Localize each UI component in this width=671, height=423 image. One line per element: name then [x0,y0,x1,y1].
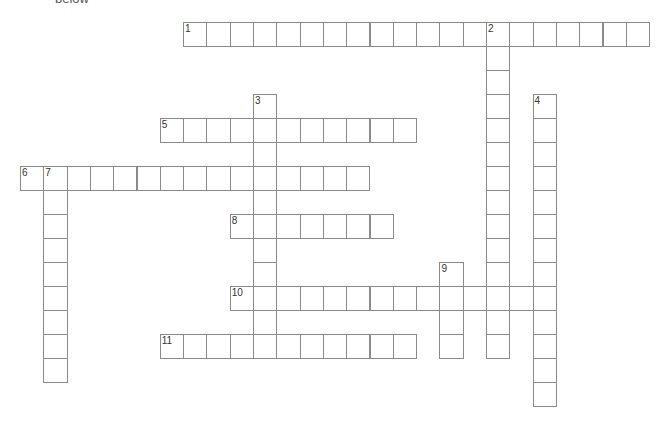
crossword-cell[interactable] [253,166,277,191]
crossword-cell[interactable] [323,118,347,143]
crossword-cell[interactable] [323,214,347,239]
crossword-cell[interactable] [43,358,67,383]
crossword-cell[interactable] [370,214,394,239]
crossword-cell[interactable] [43,286,67,311]
crossword-cell[interactable] [253,262,277,287]
crossword-cell[interactable] [183,334,207,359]
crossword-cell[interactable] [533,118,557,143]
crossword-cell[interactable] [206,118,230,143]
crossword-cell[interactable] [533,286,557,311]
crossword-cell[interactable] [300,22,324,47]
crossword-cell[interactable] [230,166,254,191]
crossword-cell[interactable] [230,334,254,359]
crossword-cell[interactable] [206,22,230,47]
crossword-cell[interactable] [346,334,370,359]
crossword-cell[interactable] [509,286,533,311]
crossword-cell[interactable] [90,166,114,191]
crossword-cell[interactable] [300,118,324,143]
crossword-cell[interactable] [486,286,510,311]
crossword-cell[interactable] [416,286,440,311]
crossword-cell[interactable] [67,166,91,191]
crossword-cell[interactable] [579,22,603,47]
crossword-cell[interactable] [509,22,533,47]
crossword-cell[interactable]: 5 [160,118,184,143]
crossword-cell[interactable] [183,166,207,191]
crossword-cell[interactable] [276,166,300,191]
crossword-cell[interactable] [230,118,254,143]
crossword-cell[interactable] [533,190,557,215]
crossword-cell[interactable]: 7 [43,166,67,191]
crossword-cell[interactable] [346,286,370,311]
crossword-cell[interactable] [486,310,510,335]
crossword-cell[interactable] [206,166,230,191]
crossword-cell[interactable] [393,22,417,47]
crossword-cell[interactable] [346,22,370,47]
crossword-cell[interactable] [230,22,254,47]
crossword-cell[interactable] [486,166,510,191]
crossword-cell[interactable] [439,334,463,359]
crossword-cell[interactable] [370,118,394,143]
crossword-cell[interactable] [393,334,417,359]
crossword-cell[interactable] [276,214,300,239]
crossword-cell[interactable] [253,22,277,47]
crossword-cell[interactable] [253,142,277,167]
crossword-cell[interactable] [43,214,67,239]
crossword-cell[interactable] [486,94,510,119]
crossword-cell[interactable] [533,166,557,191]
crossword-cell[interactable] [486,262,510,287]
crossword-cell[interactable] [603,22,627,47]
crossword-cell[interactable] [323,166,347,191]
crossword-cell[interactable] [43,190,67,215]
crossword-cell[interactable] [43,262,67,287]
crossword-cell[interactable] [533,310,557,335]
crossword-cell[interactable]: 11 [160,334,184,359]
crossword-cell[interactable] [253,214,277,239]
crossword-cell[interactable] [300,166,324,191]
crossword-cell[interactable] [370,334,394,359]
crossword-cell[interactable] [463,22,487,47]
crossword-cell[interactable] [276,286,300,311]
crossword-cell[interactable] [276,334,300,359]
crossword-cell[interactable] [346,118,370,143]
crossword-cell[interactable] [486,46,510,71]
crossword-cell[interactable]: 3 [253,94,277,119]
crossword-cell[interactable] [253,334,277,359]
crossword-cell[interactable] [439,286,463,311]
crossword-cell[interactable] [626,22,650,47]
crossword-cell[interactable] [439,22,463,47]
crossword-cell[interactable] [276,118,300,143]
crossword-cell[interactable] [300,214,324,239]
crossword-cell[interactable] [253,238,277,263]
crossword-cell[interactable] [370,22,394,47]
crossword-cell[interactable] [486,142,510,167]
crossword-cell[interactable] [533,238,557,263]
crossword-cell[interactable] [323,22,347,47]
crossword-cell[interactable] [253,190,277,215]
crossword-cell[interactable]: 8 [230,214,254,239]
crossword-cell[interactable] [533,22,557,47]
crossword-cell[interactable] [533,262,557,287]
crossword-cell[interactable] [276,22,300,47]
crossword-cell[interactable] [370,286,394,311]
crossword-cell[interactable]: 1 [183,22,207,47]
crossword-cell[interactable] [393,286,417,311]
crossword-cell[interactable] [137,166,161,191]
crossword-cell[interactable] [43,334,67,359]
crossword-cell[interactable] [416,22,440,47]
crossword-cell[interactable] [323,286,347,311]
crossword-cell[interactable] [160,166,184,191]
crossword-cell[interactable] [486,238,510,263]
crossword-cell[interactable] [463,286,487,311]
crossword-cell[interactable] [556,22,580,47]
crossword-cell[interactable] [533,358,557,383]
crossword-cell[interactable] [533,142,557,167]
crossword-cell[interactable] [183,118,207,143]
crossword-cell[interactable] [533,214,557,239]
crossword-cell[interactable] [43,238,67,263]
crossword-cell[interactable] [439,310,463,335]
crossword-cell[interactable] [323,334,347,359]
crossword-cell[interactable]: 9 [439,262,463,287]
crossword-cell[interactable] [533,334,557,359]
crossword-cell[interactable] [486,70,510,95]
crossword-cell[interactable] [533,382,557,407]
